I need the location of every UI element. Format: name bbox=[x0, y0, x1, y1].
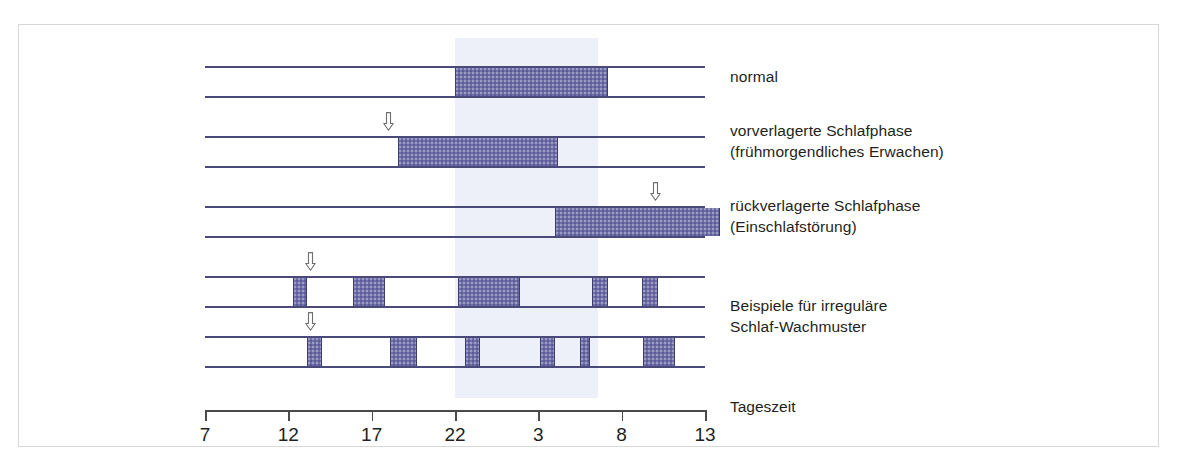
sleep-phase-figure: normal vorverlagerte Schlafphase (frühmo… bbox=[0, 0, 1179, 473]
axis-tick-label: 7 bbox=[200, 424, 211, 446]
sleep-block bbox=[580, 338, 590, 366]
down-arrow-icon bbox=[305, 252, 316, 271]
rail-bottom bbox=[205, 96, 705, 98]
axis-tick-label: 17 bbox=[361, 424, 382, 446]
axis-tick-label: 3 bbox=[533, 424, 544, 446]
sleep-track bbox=[205, 278, 705, 306]
sleep-track bbox=[205, 138, 705, 166]
sleep-block bbox=[307, 338, 322, 366]
sleep-block bbox=[592, 278, 609, 306]
sleep-block bbox=[455, 68, 608, 96]
sleep-block bbox=[643, 338, 675, 366]
caption-vorverlagerte-schlafphase: vorverlagerte Schlafphase (frühmorgendli… bbox=[730, 120, 944, 163]
sleep-block bbox=[540, 338, 555, 366]
sleep-block bbox=[390, 338, 417, 366]
sleep-block bbox=[353, 278, 385, 306]
axis-tick bbox=[622, 410, 624, 421]
sleep-track bbox=[205, 208, 705, 236]
down-arrow-icon bbox=[305, 312, 316, 331]
axis-tick bbox=[455, 410, 457, 421]
rail-bottom bbox=[205, 166, 705, 168]
caption-normal: normal bbox=[730, 66, 778, 87]
axis-tick bbox=[705, 410, 707, 421]
axis-tick bbox=[288, 410, 290, 421]
axis-tick-label: 13 bbox=[694, 424, 715, 446]
axis-tick-label: 8 bbox=[616, 424, 627, 446]
caption-irregulaere-muster: Beispiele für irreguläre Schlaf-Wachmust… bbox=[730, 295, 887, 338]
axis-caption-tageszeit: Tageszeit bbox=[730, 398, 795, 416]
sleep-block bbox=[642, 278, 659, 306]
sleep-block bbox=[458, 278, 520, 306]
caption-rueckverlagerte-schlafphase: rückverlagerte Schlafphase (Einschlafstö… bbox=[730, 195, 920, 238]
down-arrow-icon bbox=[650, 182, 661, 201]
axis-tick-label: 22 bbox=[444, 424, 465, 446]
rail-bottom bbox=[205, 236, 705, 238]
axis-tick-label: 12 bbox=[278, 424, 299, 446]
sleep-block bbox=[398, 138, 558, 166]
sleep-block bbox=[465, 338, 480, 366]
time-axis: 71217223813 bbox=[205, 410, 705, 411]
sleep-block bbox=[293, 278, 306, 306]
rail-bottom bbox=[205, 306, 705, 308]
sleep-track bbox=[205, 68, 705, 96]
axis-tick bbox=[205, 410, 207, 421]
axis-tick bbox=[538, 410, 540, 421]
sleep-block bbox=[555, 208, 720, 236]
down-arrow-icon bbox=[383, 112, 394, 131]
axis-tick bbox=[372, 410, 374, 421]
rail-bottom bbox=[205, 366, 705, 368]
sleep-track bbox=[205, 338, 705, 366]
